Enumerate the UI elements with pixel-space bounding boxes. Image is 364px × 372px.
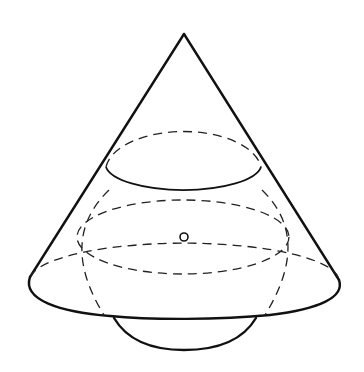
sphere-left-hidden [82,190,109,315]
sphere-bottom-cap [114,318,256,350]
intersection-circle-front [106,167,261,190]
cone-left-slant [30,34,184,277]
cone-base-back-dashed [30,243,339,280]
sphere-equator [77,200,289,274]
intersection-circle-back [106,132,261,167]
cone-base-front [29,277,340,319]
cone-sphere-diagram [0,0,364,372]
sphere-center-point [180,233,188,241]
